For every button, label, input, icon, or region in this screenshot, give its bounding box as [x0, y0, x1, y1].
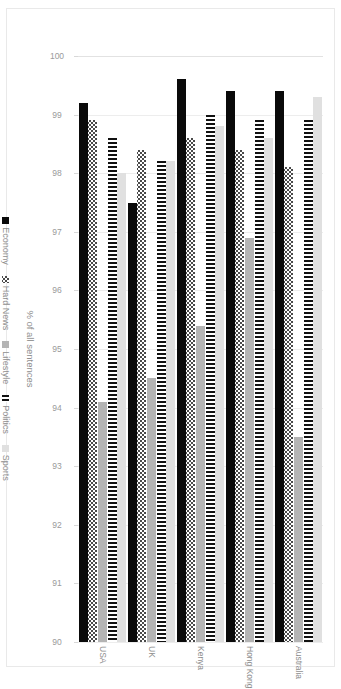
bar-politics-kenya — [206, 115, 215, 642]
gridline — [78, 642, 323, 643]
legend-swatch-icon — [2, 217, 9, 224]
value-axis-label: 93 — [44, 461, 70, 471]
value-axis-tick — [74, 56, 78, 57]
value-axis-label: 97 — [44, 227, 70, 237]
legend-label: Economy — [1, 227, 10, 265]
value-axis-label: 92 — [44, 520, 70, 530]
value-axis-tick — [74, 642, 78, 643]
value-axis-tick — [74, 583, 78, 584]
bar-sports-usa — [117, 173, 126, 642]
bar-lifestyle-uk — [147, 378, 156, 642]
bar-sports-hong-kong — [264, 138, 273, 642]
bar-politics-hong-kong — [255, 120, 264, 642]
legend-swatch-icon — [2, 395, 9, 402]
legend-label: Hard News — [1, 286, 10, 331]
category-label-australia: Australia — [295, 646, 305, 679]
value-axis-tick — [74, 466, 78, 467]
bar-lifestyle-usa — [98, 402, 107, 642]
legend-label: Sports — [1, 455, 10, 481]
bar-sports-australia — [313, 97, 322, 642]
value-axis-tick — [74, 525, 78, 526]
value-axis-title: % of all sentences — [25, 289, 36, 409]
value-axis-tick — [74, 408, 78, 409]
legend-swatch-icon — [2, 341, 9, 348]
bar-politics-australia — [304, 120, 313, 642]
value-axis-label: 98 — [44, 168, 70, 178]
value-axis-label: 96 — [44, 285, 70, 295]
legend-item-sports[interactable]: Sports — [1, 445, 10, 481]
bar-hard-news-kenya — [186, 138, 195, 642]
legend-item-hard-news[interactable]: Hard News — [1, 276, 10, 331]
legend-swatch-icon — [2, 445, 9, 452]
plot-area — [78, 56, 323, 642]
legend-item-economy[interactable]: Economy — [1, 217, 10, 265]
value-axis-tick — [74, 290, 78, 291]
bar-sports-kenya — [215, 126, 224, 642]
bar-economy-uk — [128, 203, 137, 643]
chart-legend: EconomyHard NewsLifestylePoliticsSports — [1, 199, 10, 499]
bar-politics-usa — [108, 138, 117, 642]
legend-item-politics[interactable]: Politics — [1, 395, 10, 434]
bar-economy-australia — [275, 91, 284, 642]
category-label-kenya: Kenya — [197, 646, 207, 670]
bar-hard-news-usa — [88, 120, 97, 642]
value-axis-label: 100 — [44, 51, 70, 61]
value-axis-label: 90 — [44, 637, 70, 647]
bar-politics-uk — [157, 161, 166, 642]
value-axis-label: 99 — [44, 110, 70, 120]
bar-group — [78, 56, 127, 642]
bar-lifestyle-australia — [294, 437, 303, 642]
legend-item-lifestyle[interactable]: Lifestyle — [1, 341, 10, 384]
bar-economy-hong-kong — [226, 91, 235, 642]
category-label-uk: UK — [148, 646, 158, 658]
bar-hard-news-hong-kong — [235, 150, 244, 642]
bar-hard-news-australia — [284, 167, 293, 642]
bar-lifestyle-hong-kong — [245, 238, 254, 642]
bar-hard-news-uk — [137, 150, 146, 642]
value-axis-tick — [74, 115, 78, 116]
category-label-hong-kong: Hong Kong — [246, 646, 256, 689]
bar-group — [176, 56, 225, 642]
value-axis-tick — [74, 349, 78, 350]
bar-sports-uk — [166, 161, 175, 642]
value-axis-label: 94 — [44, 403, 70, 413]
legend-label: Politics — [1, 405, 10, 434]
legend-swatch-icon — [2, 276, 9, 283]
bar-group — [225, 56, 274, 642]
bar-economy-kenya — [177, 79, 186, 642]
value-axis-tick — [74, 173, 78, 174]
value-axis-label: 95 — [44, 344, 70, 354]
category-label-usa: USA — [99, 646, 109, 663]
bar-group — [127, 56, 176, 642]
bar-lifestyle-kenya — [196, 326, 205, 642]
value-axis-tick — [74, 232, 78, 233]
bar-group — [274, 56, 323, 642]
bar-economy-usa — [79, 103, 88, 642]
legend-label: Lifestyle — [1, 351, 10, 384]
value-axis-label: 91 — [44, 578, 70, 588]
